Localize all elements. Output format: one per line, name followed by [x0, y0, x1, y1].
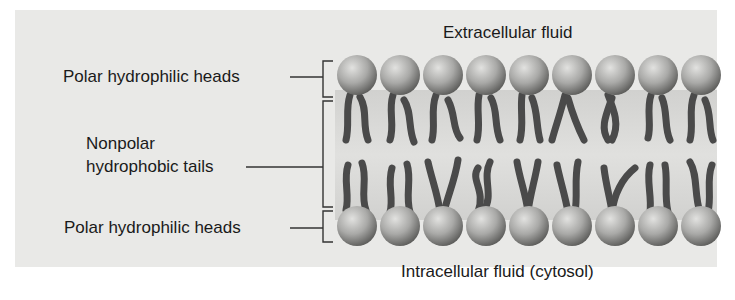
head-sphere [509, 55, 549, 95]
head-sphere [380, 206, 420, 246]
head-sphere [423, 55, 463, 95]
head-sphere [552, 206, 592, 246]
upper-heads-label: Polar hydrophilic heads [63, 67, 240, 87]
head-sphere [681, 206, 721, 246]
lower-heads-label: Polar hydrophilic heads [64, 218, 241, 238]
head-sphere [337, 55, 377, 95]
upper-heads-row [337, 55, 721, 95]
head-sphere [423, 206, 463, 246]
tails-label-line1: Nonpolar [86, 134, 155, 154]
tails-label-line2: hydrophobic tails [86, 157, 214, 177]
head-sphere [380, 55, 420, 95]
head-sphere [466, 55, 506, 95]
bracket-tails [323, 101, 333, 207]
head-sphere [681, 55, 721, 95]
head-sphere [595, 55, 635, 95]
lower-heads-row [337, 206, 721, 246]
head-sphere [595, 206, 635, 246]
bracket-lower-heads [323, 211, 333, 242]
head-sphere [552, 55, 592, 95]
head-sphere [337, 206, 377, 246]
bracket-upper-heads [323, 61, 333, 97]
callout-brackets [246, 61, 333, 242]
head-sphere [638, 206, 678, 246]
extracellular-fluid-label: Extracellular fluid [443, 23, 572, 43]
head-sphere [509, 206, 549, 246]
head-sphere [638, 55, 678, 95]
head-sphere [466, 206, 506, 246]
intracellular-fluid-label: Intracellular fluid (cytosol) [401, 262, 594, 282]
